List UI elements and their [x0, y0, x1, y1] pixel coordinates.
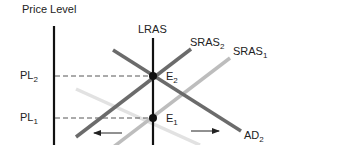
ad1-curve [76, 89, 200, 145]
e2-point [149, 72, 157, 80]
pl1-label: PL1 [20, 111, 38, 126]
lras-label: LRAS [138, 23, 167, 35]
e1-label: E1 [166, 112, 178, 127]
pl2-label: PL2 [20, 69, 38, 84]
as-ad-diagram: Price Level LRAS SRAS2 SRAS1 AD2 PL2 PL1… [0, 0, 352, 145]
sras1-label: SRAS1 [233, 45, 268, 60]
e1-point [149, 114, 157, 122]
sras2-label: SRAS2 [190, 36, 225, 51]
y-axis-label: Price Level [22, 3, 76, 15]
ad2-label: AD2 [244, 129, 264, 144]
